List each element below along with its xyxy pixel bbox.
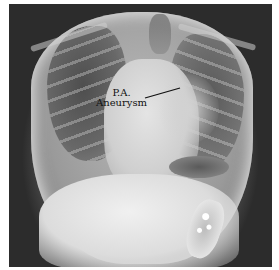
annotation-pointer-line [0, 0, 279, 270]
